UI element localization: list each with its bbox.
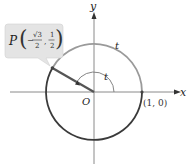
x-numerator: √3 xyxy=(33,31,42,39)
arc-length-label: t xyxy=(115,40,120,51)
radius-segment xyxy=(52,68,94,92)
point-1-0 xyxy=(140,90,143,93)
angle-label: t xyxy=(104,71,109,82)
comma: , xyxy=(44,37,47,46)
y-numerator: 1 xyxy=(50,31,54,39)
unit-circle-diagram: y x O (1, 0) t t P ( − √3 2 , 1 2 ) xyxy=(0,0,188,166)
y-axis-label: y xyxy=(89,0,97,13)
x-axis-label: x xyxy=(180,86,187,99)
angle-arc xyxy=(77,72,114,92)
y-axis-arrow-icon xyxy=(92,12,97,19)
origin-label: O xyxy=(82,96,90,107)
x-denominator: 2 xyxy=(35,42,39,50)
start-point-label: (1, 0) xyxy=(143,98,167,108)
point-label-prefix: P xyxy=(8,34,18,48)
y-denominator: 2 xyxy=(50,42,54,50)
point-p xyxy=(51,66,55,70)
right-paren: ) xyxy=(55,26,64,51)
arc-t xyxy=(52,44,142,92)
